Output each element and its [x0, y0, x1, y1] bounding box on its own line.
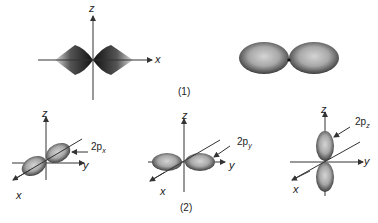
px-x-label: x [16, 190, 22, 201]
pz-x-label: x [293, 184, 299, 195]
label-2pz: 2pz [355, 117, 370, 129]
label-2py: 2py [237, 137, 252, 149]
py-z-label: z [182, 110, 188, 121]
py-x-label: x [160, 186, 166, 197]
caption-part-1: (1) [178, 87, 190, 97]
pz-z-label: z [321, 104, 327, 115]
lobe-left [239, 42, 289, 74]
nucleus-dot [287, 58, 290, 61]
caption-part-2: (2) [180, 203, 192, 213]
label-2px: 2px [91, 142, 106, 154]
orbital-2pz [290, 112, 363, 196]
x-axis-label: x [155, 54, 161, 65]
p-orbital-lobes [239, 42, 339, 74]
pz-y-label: y [364, 156, 370, 167]
px-y-label: y [83, 160, 89, 171]
z-axis-label: z [89, 3, 95, 14]
px-z-label: z [42, 108, 48, 119]
orbital-2py [148, 119, 230, 192]
orbital-2px [12, 117, 88, 180]
angular-plot [38, 16, 152, 100]
lobe-right [289, 42, 339, 74]
py-y-label: y [229, 160, 235, 171]
